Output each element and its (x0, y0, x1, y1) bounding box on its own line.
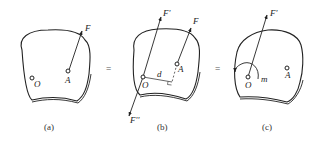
caption-b: (b) (157, 122, 168, 132)
force-translation-diagram: F A O (a) = F' F F'' d A O (b) = F' m (0, 0, 319, 141)
force-f-prime-arrow (248, 15, 267, 77)
force-f-prime-arrow (143, 17, 161, 77)
caption-a: (a) (44, 122, 54, 132)
equals-sign-2: = (215, 63, 220, 73)
point-o-marker (246, 75, 250, 79)
extension-dashed-line (172, 64, 177, 82)
rigid-body-outline (21, 30, 90, 101)
body-thickness-edge (140, 72, 200, 101)
point-a-label: A (177, 64, 184, 74)
point-a-label: A (284, 70, 291, 80)
force-f-prime-label: F' (162, 8, 171, 18)
panel-c: F' m O A (c) (235, 8, 303, 132)
force-f-arrow (177, 28, 191, 64)
moment-m-label: m (261, 74, 268, 84)
equals-sign-1: = (106, 63, 111, 73)
force-f-label: F (192, 16, 199, 26)
point-o-label: O (142, 80, 149, 90)
caption-c: (c) (262, 122, 272, 132)
distance-d-label: d (157, 69, 162, 79)
point-a-label: A (64, 75, 71, 85)
force-f-label: F (84, 23, 91, 33)
force-f-arrow (69, 31, 82, 70)
point-o-label: O (34, 79, 41, 89)
panel-b: F' F F'' d A O (b) (129, 8, 200, 132)
point-o-label: O (245, 80, 252, 90)
point-a-marker (66, 69, 70, 73)
panel-a: F A O (a) (21, 23, 91, 132)
rigid-body-outline (235, 30, 303, 102)
force-f-double-prime-label: F'' (129, 115, 140, 125)
force-f-prime-label: F' (269, 8, 278, 18)
point-o-marker (141, 75, 145, 79)
